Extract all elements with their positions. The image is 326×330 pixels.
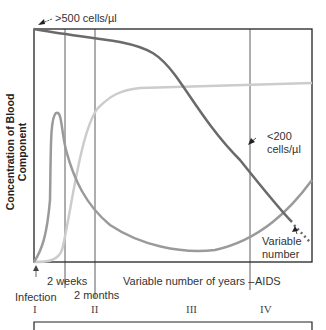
- stage-1: I: [33, 303, 37, 315]
- label-2-months: 2 months: [74, 289, 119, 302]
- annotation-variable-a: Variable: [262, 235, 302, 248]
- label-years: Variable number of years –: [123, 275, 254, 288]
- stage-4: IV: [260, 303, 272, 315]
- stage-3: III: [186, 303, 197, 315]
- annotation-variable-b: number: [262, 248, 299, 261]
- arrow-top-icon: [38, 19, 45, 25]
- annotation-200-b: cells/µl: [267, 143, 301, 156]
- y-axis-label: Concentration of Blood Component: [4, 72, 28, 232]
- arrow-200-icon: [248, 138, 255, 145]
- annotation-200-a: <200: [267, 130, 292, 143]
- arrow-infection-icon: [33, 265, 39, 271]
- bottom-box: [34, 322, 312, 330]
- label-aids: AIDS: [255, 275, 281, 288]
- annotation-500: >500 cells/µl: [55, 12, 117, 25]
- stage-2: II: [91, 303, 98, 315]
- label-2-weeks: 2 weeks: [47, 275, 87, 288]
